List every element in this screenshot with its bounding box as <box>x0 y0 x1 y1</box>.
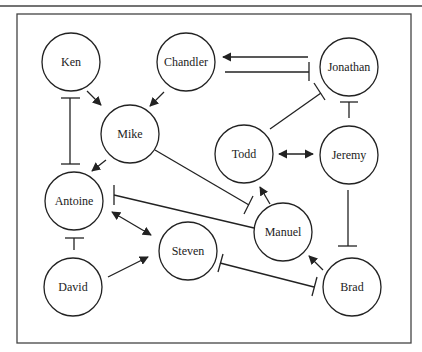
node-label: Antoine <box>55 194 94 208</box>
node-label: Manuel <box>265 225 302 239</box>
edge-mike-antoine <box>92 160 106 171</box>
node-david: David <box>44 258 102 316</box>
node-todd: Todd <box>215 125 273 183</box>
node-mike: Mike <box>101 105 159 163</box>
node-manuel: Manuel <box>254 203 312 261</box>
node-jeremy: Jeremy <box>320 126 378 184</box>
edge-manuel-antoine <box>114 185 254 228</box>
edge-todd-jonathan <box>270 83 325 129</box>
node-brad: Brad <box>323 258 381 316</box>
edge-jeremy-jonathan <box>340 102 358 118</box>
node-label: Jeremy <box>332 148 367 162</box>
node-jonathan: Jonathan <box>320 38 378 96</box>
node-label: Chandler <box>164 55 208 69</box>
edge-chandler-jonathan <box>225 62 309 81</box>
nodes: Ken Chandler Jonathan Mike Todd Jeremy A… <box>42 33 381 316</box>
node-ken: Ken <box>42 33 100 91</box>
node-label: Todd <box>232 147 257 161</box>
edge-david-steven <box>108 257 148 277</box>
edge-manuel-todd <box>260 187 270 204</box>
edge-brad-manuel <box>309 256 323 270</box>
edge-chandler-mike <box>150 92 164 106</box>
node-label: Brad <box>340 280 363 294</box>
edge-david-antoine <box>65 238 84 250</box>
node-label: Ken <box>61 55 81 69</box>
node-antoine: Antoine <box>45 172 103 230</box>
node-label: Mike <box>117 127 142 141</box>
node-label: David <box>58 280 87 294</box>
node-label: Jonathan <box>328 60 371 74</box>
edge-brad-steven <box>218 254 317 296</box>
edge-antoine-steven <box>112 212 151 235</box>
edge-ken-antoine <box>61 98 80 164</box>
node-steven: Steven <box>159 222 217 280</box>
node-chandler: Chandler <box>157 33 215 91</box>
node-label: Steven <box>172 244 205 258</box>
edge-jeremy-brad <box>338 190 357 246</box>
network-diagram: Ken Chandler Jonathan Mike Todd Jeremy A… <box>0 0 422 352</box>
edge-ken-mike <box>87 91 101 105</box>
